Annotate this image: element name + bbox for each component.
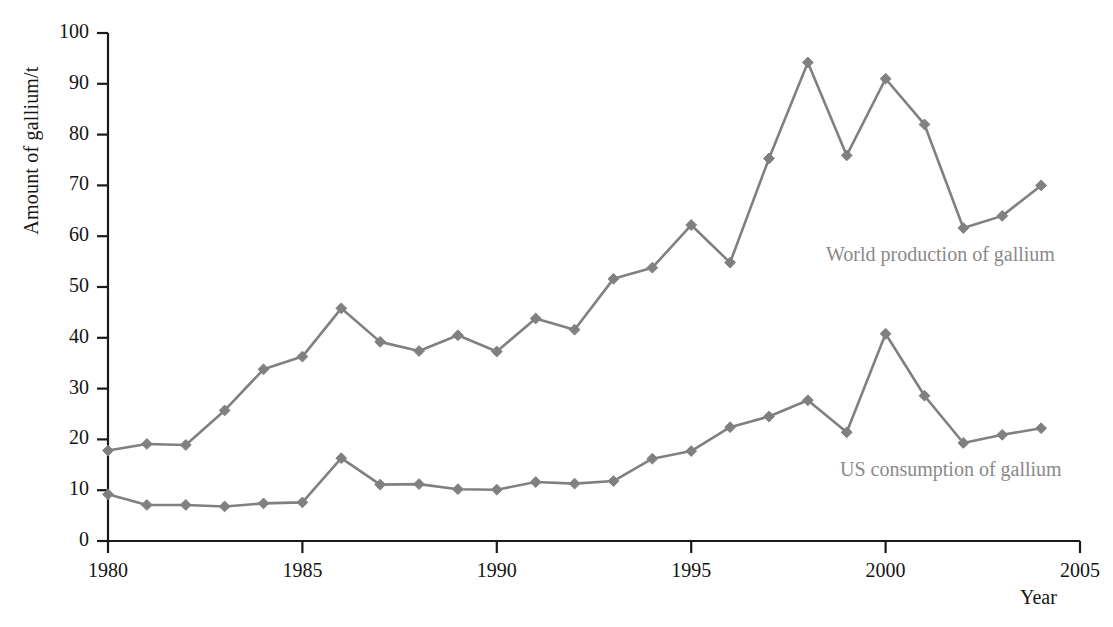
y-tick-label: 90 bbox=[43, 71, 89, 94]
y-axis-ticks bbox=[97, 33, 108, 541]
data-point-marker bbox=[841, 150, 852, 161]
y-tick-label: 20 bbox=[43, 426, 89, 449]
x-axis-title: Year bbox=[1020, 586, 1057, 609]
data-point-marker bbox=[180, 500, 191, 511]
x-tick-label: 1985 bbox=[262, 559, 342, 582]
series-label: World production of gallium bbox=[826, 243, 1055, 266]
x-tick-label: 1995 bbox=[651, 559, 731, 582]
series-label: US consumption of gallium bbox=[840, 458, 1062, 481]
data-point-marker bbox=[530, 477, 541, 488]
data-point-marker bbox=[258, 498, 269, 509]
y-tick-label: 30 bbox=[43, 376, 89, 399]
data-point-marker bbox=[141, 500, 152, 511]
data-point-marker bbox=[141, 439, 152, 450]
y-tick-label: 0 bbox=[43, 528, 89, 551]
data-point-marker bbox=[219, 501, 230, 512]
data-point-marker bbox=[103, 445, 114, 456]
x-tick-label: 2000 bbox=[846, 559, 926, 582]
data-point-marker bbox=[764, 153, 775, 164]
x-tick-label: 2005 bbox=[1040, 559, 1113, 582]
data-point-marker bbox=[647, 453, 658, 464]
y-axis-title: Amount of gallium/t bbox=[20, 36, 43, 266]
data-point-marker bbox=[1036, 423, 1047, 434]
y-tick-label: 50 bbox=[43, 274, 89, 297]
data-point-marker bbox=[608, 476, 619, 487]
data-point-marker bbox=[414, 479, 425, 490]
y-tick-label: 80 bbox=[43, 122, 89, 145]
data-point-marker bbox=[453, 330, 464, 341]
data-point-marker bbox=[958, 223, 969, 234]
data-point-marker bbox=[802, 57, 813, 68]
x-axis-ticks bbox=[108, 541, 1080, 553]
y-tick-label: 100 bbox=[43, 20, 89, 43]
data-point-marker bbox=[569, 478, 580, 489]
plot-area bbox=[0, 0, 1113, 627]
y-tick-label: 60 bbox=[43, 223, 89, 246]
x-tick-label: 1980 bbox=[68, 559, 148, 582]
x-tick-label: 1990 bbox=[457, 559, 537, 582]
y-tick-label: 10 bbox=[43, 477, 89, 500]
data-point-marker bbox=[414, 346, 425, 357]
y-tick-label: 40 bbox=[43, 325, 89, 348]
data-point-marker bbox=[491, 484, 502, 495]
data-series bbox=[103, 328, 1047, 512]
y-tick-label: 70 bbox=[43, 172, 89, 195]
data-point-marker bbox=[997, 429, 1008, 440]
gallium-line-chart: Amount of gallium/t Year 100908070605040… bbox=[0, 0, 1113, 627]
data-point-marker bbox=[764, 411, 775, 422]
data-point-marker bbox=[453, 484, 464, 495]
